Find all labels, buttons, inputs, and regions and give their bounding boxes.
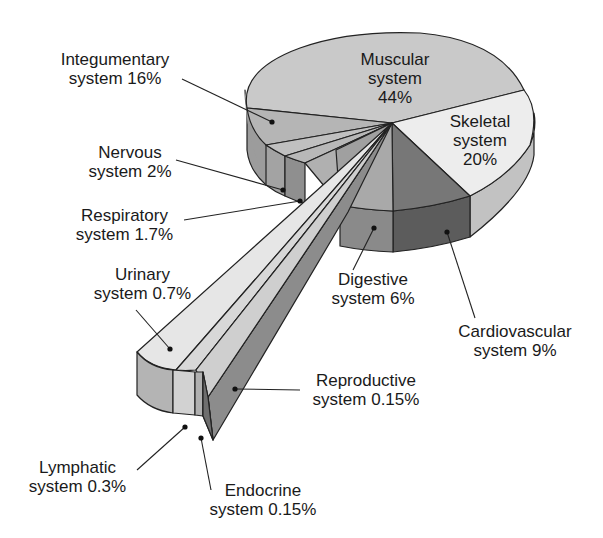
label-integumentary: Integumentary system 16% xyxy=(45,50,185,88)
label-cardiovascular: Cardiovascular system 9% xyxy=(440,322,590,360)
label-reproductive: Reproductive system 0.15% xyxy=(296,371,436,409)
label-urinary: Urinary system 0.7% xyxy=(80,265,205,303)
wedge-end-lymphatic xyxy=(173,370,195,415)
label-nervous: Nervous system 2% xyxy=(75,143,185,181)
label-digestive: Digestive system 6% xyxy=(318,270,428,308)
label-skeletal: Skeletal system 20% xyxy=(440,112,520,169)
label-endocrine: Endocrine system 0.15% xyxy=(193,481,333,519)
label-muscular: Muscular system 44% xyxy=(345,50,445,107)
wedge-end-endocrine xyxy=(195,372,203,416)
slice-side-respiratory xyxy=(285,156,305,203)
leader-respiratory xyxy=(184,201,300,220)
label-respiratory: Respiratory system 1.7% xyxy=(62,206,187,244)
leader-cardiovascular xyxy=(447,232,475,318)
leader-lymphatic xyxy=(137,427,185,470)
label-lymphatic: Lymphatic system 0.3% xyxy=(15,458,140,496)
leader-reproductive xyxy=(235,389,300,390)
